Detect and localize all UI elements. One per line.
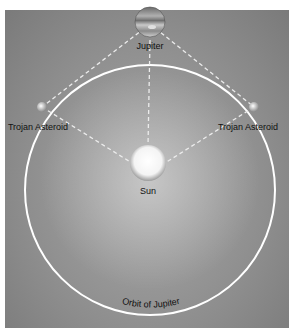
trojan-right-label: Trojan Asteroid [218,122,278,132]
orbit-label: Orbit of Jupiter [121,296,180,310]
trojan-asteroid-right [249,102,259,112]
sun-label: Sun [140,186,156,196]
jupiter-label: Jupiter [136,41,163,51]
trojan-asteroid-left [37,102,47,112]
sun [130,145,166,181]
jupiter-planet [135,7,165,37]
trojan-left-label: Trojan Asteroid [8,122,68,132]
